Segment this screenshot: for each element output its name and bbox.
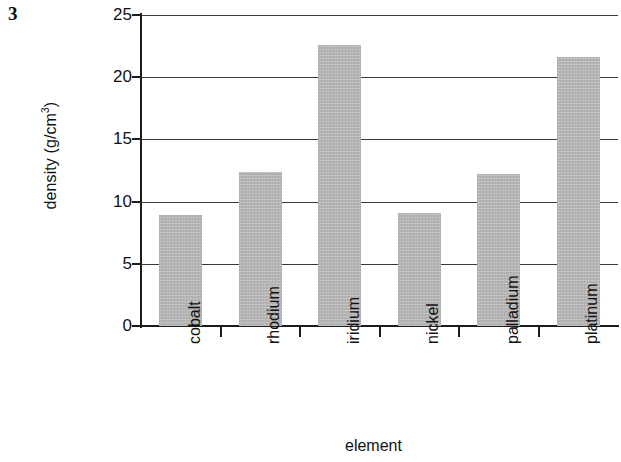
y-axis-tick (132, 325, 141, 327)
x-axis-tick (538, 327, 540, 337)
y-axis-tick-labels: 0510152025 (88, 0, 132, 462)
x-axis-category-label: platinum (584, 224, 600, 344)
y-axis-tick (132, 138, 141, 140)
gridline (141, 77, 618, 78)
y-axis-tick (132, 201, 141, 203)
gridline (141, 139, 618, 140)
x-axis-category-label: cobalt (187, 224, 203, 344)
y-axis-tick-label: 10 (98, 193, 132, 210)
y-axis-title-close: ) (42, 102, 59, 107)
y-axis-tick-label: 20 (98, 68, 132, 85)
y-axis-tick-label: 15 (98, 130, 132, 147)
y-axis-tick-label: 5 (98, 255, 132, 272)
x-axis-category-label: palladium (505, 224, 521, 344)
y-axis-title-base: density (g/cm (42, 113, 59, 209)
y-axis-tick (132, 263, 141, 265)
x-axis-category-label: iridium (346, 224, 362, 344)
gridline (141, 264, 618, 265)
y-axis-title-exponent: 3 (40, 107, 51, 113)
x-axis-tick (379, 327, 381, 337)
y-axis-tick-label: 25 (98, 6, 132, 23)
gridline (141, 202, 618, 203)
x-axis-category-label: rhodium (266, 224, 282, 344)
y-axis-tick-label: 0 (98, 317, 132, 334)
x-axis-tick (220, 327, 222, 337)
x-axis-title: element (345, 438, 402, 454)
y-axis-tick (132, 14, 141, 16)
x-axis-tick (299, 327, 301, 337)
y-axis-title: density (g/cm3) (40, 61, 59, 251)
bar-chart-figure: 0510152025 density (g/cm3) cobaltrhodium… (0, 0, 621, 462)
x-axis-category-label: nickel (425, 224, 441, 344)
gridline (141, 15, 618, 16)
x-axis-tick (458, 327, 460, 337)
y-axis-tick (132, 76, 141, 78)
plot-area (141, 15, 618, 326)
